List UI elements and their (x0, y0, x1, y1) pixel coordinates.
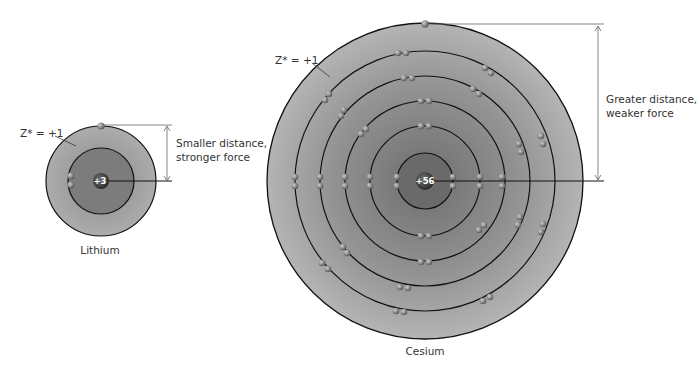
lithium-name-label: Lithium (0, 243, 200, 257)
lithium-nucleus-charge: +3 (85, 174, 115, 188)
cesium-annotation-line2: weaker force (606, 106, 697, 120)
cesium-name-label: Cesium (385, 344, 465, 358)
cesium-annotation-line1: Greater distance, (606, 92, 697, 106)
electron (68, 173, 75, 180)
valence-electron (421, 20, 429, 28)
lithium-annotation-line1: Smaller distance, (176, 136, 267, 150)
cesium-nucleus-charge: +56 (405, 174, 445, 188)
valence-electron (97, 122, 104, 129)
lithium-zeff-label: Z* = +1 (20, 127, 63, 139)
cesium-annotation: Greater distance, weaker force (606, 92, 697, 120)
electron (68, 182, 75, 189)
lithium-annotation-line2: stronger force (176, 150, 267, 164)
cesium-zeff-label: Z* = +1 (275, 54, 318, 66)
lithium-annotation: Smaller distance, stronger force (176, 136, 267, 164)
